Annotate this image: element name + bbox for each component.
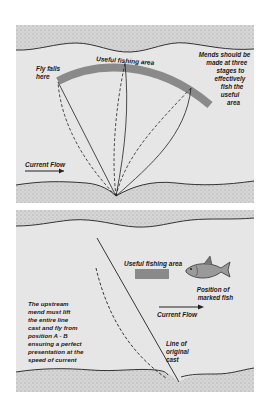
top-diagram-svg: Fly falls here Useful fishing area Mends… <box>16 25 254 203</box>
bottom-diagram-panel: Useful fishing area Position of marked f… <box>16 210 254 392</box>
top-diagram-panel: Fly falls here Useful fishing area Mends… <box>16 25 254 203</box>
useful-area-label: Useful fishing area <box>124 260 183 268</box>
bottom-diagram-svg: Useful fishing area Position of marked f… <box>16 210 254 392</box>
useful-fishing-area-block <box>135 269 169 279</box>
fish-position-label: Position of marked fish <box>197 286 233 301</box>
current-flow-label: Current Flow <box>25 161 66 168</box>
current-flow-label: Current Flow <box>157 311 198 318</box>
